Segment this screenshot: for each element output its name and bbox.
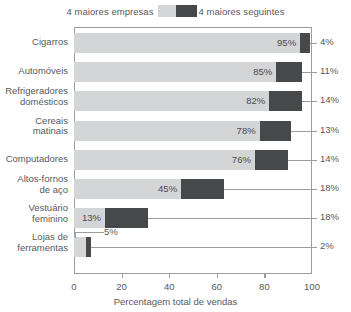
- bar-segment-next-four[interactable]: [105, 208, 148, 228]
- category-label: Automóveis: [0, 66, 68, 77]
- x-axis-tick: [217, 273, 218, 278]
- legend-swatches: [158, 5, 197, 17]
- bar-track: [74, 121, 312, 141]
- x-axis-tick-label: 100: [297, 281, 327, 292]
- chart-legend: 4 maiores empresas 4 maiores seguintes: [0, 0, 351, 22]
- bar-segment-next-four[interactable]: [255, 150, 288, 170]
- leader-line-to-right-label: [302, 72, 317, 73]
- bar-track: [74, 150, 312, 170]
- x-axis-tick-label: 0: [59, 281, 89, 292]
- category-label: Cigarros: [0, 37, 68, 48]
- x-axis-tick: [122, 273, 123, 278]
- bar-row: Altos-fornos de aço45%18%: [0, 179, 351, 199]
- bar-row: Vestuário feminino13%18%: [0, 208, 351, 228]
- leader-line-to-right-label: [148, 218, 317, 219]
- x-axis-tick-label: 60: [202, 281, 232, 292]
- category-label: Cereais matinais: [0, 116, 68, 137]
- x-axis-tick: [169, 273, 170, 278]
- bar-segment-next-four[interactable]: [181, 179, 224, 199]
- bar-row: Cereais matinais78%13%: [0, 121, 351, 141]
- category-label: Altos-fornos de aço: [0, 174, 68, 195]
- bar-value-label-leading-four: 82%: [233, 95, 265, 107]
- bar-value-label-next-four: 4%: [320, 36, 334, 48]
- bar-segment-leading-four[interactable]: [74, 237, 86, 257]
- leader-line-horizontal: [75, 232, 104, 233]
- bar-row: Automóveis85%11%: [0, 62, 351, 82]
- bar-value-label-leading-four: 78%: [224, 125, 256, 137]
- bar-track: [74, 91, 312, 111]
- bar-value-label-leading-four: 85%: [240, 66, 272, 78]
- category-label: Lojas de ferramentas: [0, 232, 68, 253]
- category-label: Vestuário feminino: [0, 203, 68, 224]
- bar-row: Refrigeradores domésticos82%14%: [0, 91, 351, 111]
- bar-value-label-next-four: 14%: [320, 94, 339, 106]
- legend-label-left: 4 maiores empresas: [67, 6, 154, 17]
- bar-segment-next-four[interactable]: [276, 62, 302, 82]
- x-axis-line: [74, 273, 312, 274]
- leader-line-to-right-label: [288, 160, 317, 161]
- bar-segment-next-four[interactable]: [269, 91, 302, 111]
- leader-line-vertical: [75, 232, 76, 238]
- bar-row: Cigarros95%4%: [0, 33, 351, 53]
- legend-label-right: 4 maiores seguintes: [199, 6, 285, 17]
- x-axis-tick-label: 20: [107, 281, 137, 292]
- bar-value-label-next-four: 2%: [320, 240, 334, 252]
- bar-value-label-leading-four: 95%: [264, 37, 296, 49]
- bar-value-label-next-four: 18%: [320, 182, 339, 194]
- leader-line-to-right-label: [291, 131, 317, 132]
- bar-value-label-leading-four: 45%: [145, 183, 177, 195]
- bar-value-label-next-four: 18%: [320, 211, 339, 223]
- leader-line-to-right-label: [91, 247, 317, 248]
- leader-line-to-right-label: [302, 101, 317, 102]
- light-gray-swatch-icon: [158, 5, 176, 17]
- category-label: Computadores: [0, 154, 68, 165]
- leader-line-to-right-label: [310, 43, 317, 44]
- bar-value-label-leading-four: 13%: [69, 212, 101, 224]
- bar-value-label-next-four: 11%: [320, 65, 338, 77]
- bar-value-label-next-four: 14%: [320, 153, 339, 165]
- x-axis-tick-label: 80: [249, 281, 279, 292]
- bar-row: Lojas de ferramentas5%2%: [0, 237, 351, 257]
- x-axis-tick-label: 40: [154, 281, 184, 292]
- bar-value-label-next-four: 13%: [320, 124, 339, 136]
- category-label: Refrigeradores domésticos: [0, 86, 68, 107]
- bar-segment-next-four[interactable]: [300, 33, 310, 53]
- x-axis-title: Percentagem total de vendas: [0, 296, 351, 307]
- leader-line-to-right-label: [224, 189, 317, 190]
- bar-value-label-leading-four: 76%: [219, 154, 251, 166]
- bar-track: [74, 62, 312, 82]
- bar-segment-next-four[interactable]: [260, 121, 291, 141]
- x-axis-tick: [264, 273, 265, 278]
- dark-gray-swatch-icon: [176, 5, 197, 17]
- bar-row: Computadores76%14%: [0, 150, 351, 170]
- bar-value-label-leading-four: 5%: [104, 226, 118, 238]
